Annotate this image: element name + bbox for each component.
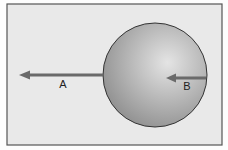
label-a: A [59, 78, 67, 90]
label-b: B [183, 80, 190, 92]
diagram: A B [0, 0, 228, 150]
sphere [103, 23, 207, 127]
